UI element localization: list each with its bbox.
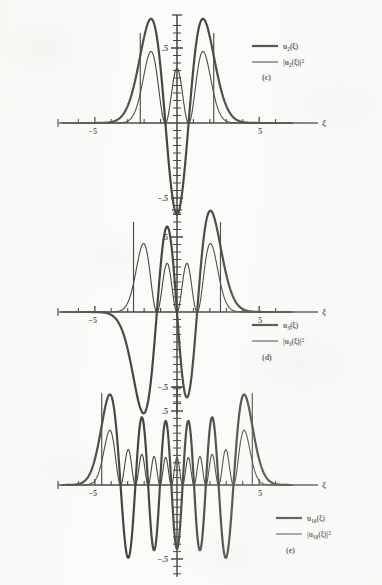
panel-label-e: (e) — [286, 546, 295, 555]
x-tick-label-max: 5 — [258, 489, 262, 498]
y-tick-label-positive: .5 — [162, 44, 168, 53]
x-tick-label-max: 5 — [258, 127, 262, 136]
x-tick-label-min: −5 — [89, 127, 98, 136]
legend-label-u10-probability-density: |u10(ξ)|2 — [307, 530, 331, 541]
x-axis-label: ξ — [322, 307, 326, 317]
panel-c: −55ξ.5−.5u2(ξ)|u2(ξ)|2(c) — [58, 15, 326, 216]
panel-label-d: (d) — [262, 353, 272, 362]
panel-label-c: (c) — [262, 73, 271, 82]
panel-d: −55ξ.5−.5u3(ξ)|u3(ξ)|2(d) — [58, 210, 326, 414]
legend-panel-e: u10(ξ)|u10(ξ)|2 — [276, 514, 331, 540]
panel-e: −55ξ.5−.5u10(ξ)|u10(ξ)|2(e) — [58, 387, 331, 576]
x-tick-label-max: 5 — [258, 316, 262, 325]
y-tick-label-positive: .5 — [162, 407, 168, 416]
x-axis-label: ξ — [322, 118, 326, 128]
y-tick-label-negative: −.5 — [157, 383, 168, 392]
legend-label-u10-wavefunction: u10(ξ) — [307, 514, 325, 524]
legend-label-u2-probability-density: |u2(ξ)|2 — [283, 58, 305, 69]
harmonic-oscillator-figure: −55ξ.5−.5u2(ξ)|u2(ξ)|2(c)−55ξ.5−.5u3(ξ)|… — [0, 0, 382, 585]
y-tick-label-negative: −.5 — [157, 555, 168, 564]
x-tick-label-min: −5 — [89, 316, 98, 325]
legend-panel-d: u3(ξ)|u3(ξ)|2 — [252, 321, 305, 347]
legend-label-u2-wavefunction: u2(ξ) — [283, 42, 299, 52]
y-tick-label-negative: −.5 — [157, 194, 168, 203]
legend-label-u3-wavefunction: u3(ξ) — [283, 321, 299, 331]
figure-canvas: −55ξ.5−.5u2(ξ)|u2(ξ)|2(c)−55ξ.5−.5u3(ξ)|… — [0, 0, 382, 585]
legend-panel-c: u2(ξ)|u2(ξ)|2 — [252, 42, 305, 68]
x-axis-label: ξ — [322, 480, 326, 490]
legend-label-u3-probability-density: |u3(ξ)|2 — [283, 337, 305, 348]
x-tick-label-min: −5 — [89, 489, 98, 498]
